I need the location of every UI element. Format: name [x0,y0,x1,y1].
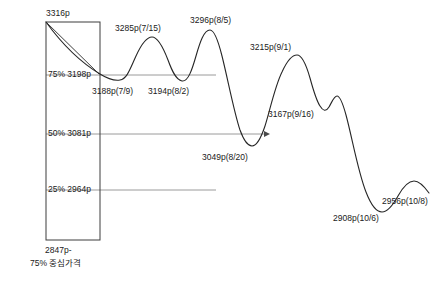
point-label-3296p: 3296p(8/5) [190,15,231,25]
base-price-label: 2847p- [45,245,71,255]
point-label-3215p: 3215p(9/1) [250,42,291,52]
point-label-2908p: 2908p(10/6) [333,213,379,223]
start-price-label: 3316p [46,8,70,18]
chart-canvas: 3316p 75% 3198p 50% 3081p 25% 2964p 2847… [0,0,446,289]
level-line-50-arrowhead [264,131,270,137]
price-curve [46,22,429,212]
point-label-3285p: 3285p(7/15) [115,23,161,33]
point-label-3167p: 3167p(9/16) [268,109,314,119]
range-box-diagonal [47,23,99,74]
level-label-75: 75% 3198p [48,69,91,79]
point-label-2956p: 2956p(10/8) [382,196,428,206]
level-label-50: 50% 3081p [48,128,91,138]
point-label-3049p: 3049p(8/20) [202,152,248,162]
point-label-3188p: 3188p(7/9) [92,86,133,96]
level-label-25: 25% 2964p [48,184,91,194]
base-price-caption: 75% 중심가격 [30,258,81,268]
point-label-3194p: 3194p(8/2) [148,86,189,96]
